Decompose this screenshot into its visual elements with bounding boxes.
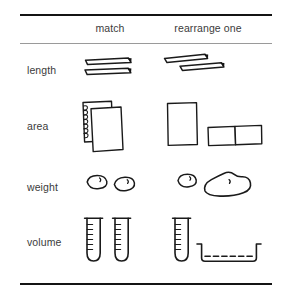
test-tube-right-icon [113,218,131,261]
row-label-volume: volume [27,236,85,248]
shallow-dish-icon [197,244,261,261]
stick-lower-shifted-icon [180,63,224,71]
sheet-horizontal-left-icon [208,126,236,145]
test-tube-left-icon [85,218,103,261]
stimulus-volume-match [82,216,138,268]
sheet-front-icon [91,107,123,152]
row-label-area: area [27,120,85,132]
clay-mass-large-icon [205,172,251,196]
stimulus-area-rearrange [165,99,263,157]
stimulus-volume-rearrange [172,216,268,268]
top-rule [20,14,272,16]
stimulus-length-rearrange [163,52,235,84]
sheet-upright-icon [168,103,198,146]
row-label-length: length [27,64,85,76]
stick-upper-shifted-icon [165,54,209,62]
stimulus-weight-rearrange [176,167,266,201]
clay-ball-left-icon [87,175,107,188]
stick-lower-icon [85,68,131,75]
header-divider-rule [20,43,272,44]
bottom-rule [20,283,272,285]
sheet-horizontal-right-icon [235,125,262,144]
stick-upper-icon [86,58,132,65]
stimulus-weight-match [84,170,142,198]
stimulus-length-match [84,56,138,82]
clay-ball-right-icon [114,177,134,191]
conservation-task-figure: match rearrange one length area weight v… [0,0,288,307]
column-header-rearrange-one: rearrange one [160,22,256,34]
clay-ball-small-icon [178,174,196,187]
test-tube-icon [173,218,191,261]
row-label-weight: weight [27,181,85,193]
column-header-match: match [72,22,148,34]
stimulus-area-match [78,99,134,157]
